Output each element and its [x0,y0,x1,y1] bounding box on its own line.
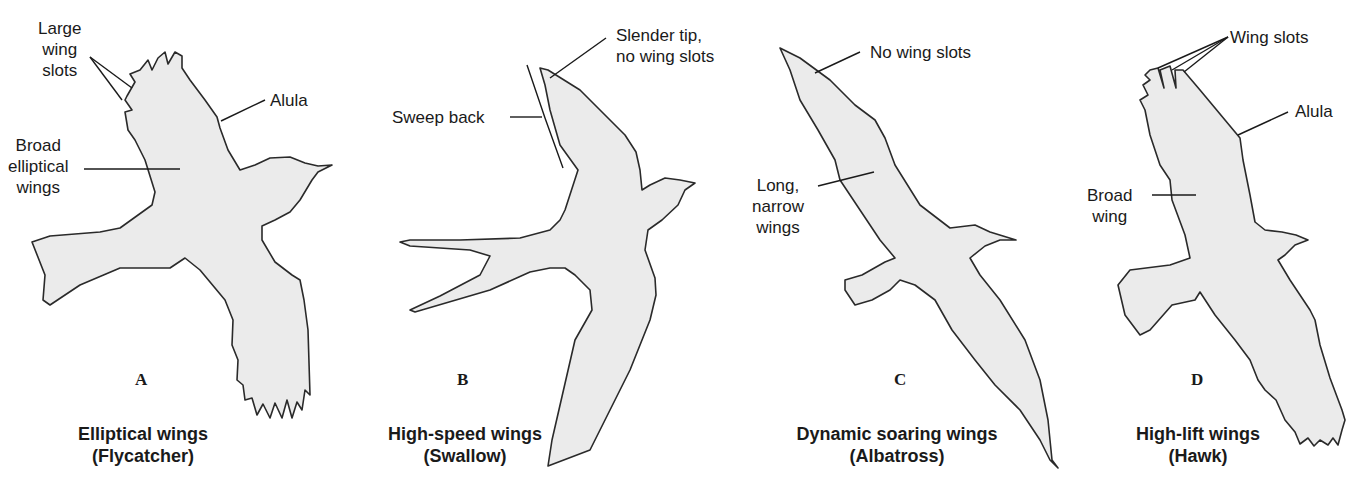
caption-d-title: High-lift wings [1123,423,1273,445]
label-broad-wing: Broad wing [1087,185,1132,227]
panel-letter-d: D [1191,370,1203,390]
caption-d: High-lift wings (Hawk) [1123,423,1273,467]
caption-d-subtitle: (Hawk) [1123,445,1273,467]
hawk-silhouette [1118,37,1345,446]
caption-a-subtitle: (Flycatcher) [48,445,238,467]
label-large-wing-slots: Large wing slots [38,18,81,81]
label-slender-tip: Slender tip, no wing slots [616,25,714,67]
label-wing-slots: Wing slots [1230,27,1308,48]
panel-letter-c: C [894,370,906,390]
label-broad-elliptical-wings: Broad elliptical wings [8,135,68,198]
caption-c: Dynamic soaring wings (Albatross) [792,423,1002,467]
caption-a-title: Elliptical wings [48,423,238,445]
bird-silhouettes [0,0,1360,489]
caption-b-subtitle: (Swallow) [365,445,565,467]
label-alula-a: Alula [270,90,308,111]
label-sweep-back: Sweep back [392,107,485,128]
caption-c-subtitle: (Albatross) [792,445,1002,467]
caption-b-title: High-speed wings [365,423,565,445]
panel-letter-b: B [457,370,468,390]
label-long-narrow-wings: Long, narrow wings [752,175,804,238]
caption-a: Elliptical wings (Flycatcher) [48,423,238,467]
caption-c-title: Dynamic soaring wings [792,423,1002,445]
label-no-wing-slots: No wing slots [870,42,971,63]
albatross-silhouette [780,48,1058,468]
swallow-silhouette [400,38,695,466]
caption-b: High-speed wings (Swallow) [365,423,565,467]
label-alula-d: Alula [1295,101,1333,122]
panel-letter-a: A [135,370,147,390]
